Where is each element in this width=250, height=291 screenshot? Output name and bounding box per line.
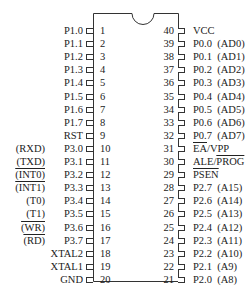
pin-name: P0.1 (AD1) [193, 50, 245, 63]
right-pin-row: 28P2.7 (A15) [0, 181, 250, 194]
pin-number: 36 [156, 76, 174, 89]
pin-name: P0.7 (AD7) [193, 129, 245, 142]
right-pin-row: 39P0.0 (AD0) [0, 37, 250, 50]
pin-stub-icon [178, 41, 185, 47]
pin-number: 38 [156, 50, 174, 63]
pin-number: 35 [156, 90, 174, 103]
pin-number: 28 [156, 181, 174, 194]
pin-stub-icon [178, 67, 185, 73]
pin-number: 25 [156, 221, 174, 234]
right-pin-row: 32P0.7 (AD7) [0, 129, 250, 142]
pin-number: 26 [156, 207, 174, 220]
pin-name: PSEN [193, 168, 219, 181]
pin-stub-icon [178, 172, 185, 178]
pin-name: P2.7 (A15) [193, 181, 242, 194]
pin-name: P2.3 (A11) [193, 234, 242, 247]
pin-number: 27 [156, 194, 174, 207]
overlined-signal: PSEN [193, 169, 219, 180]
pin-stub-icon [178, 211, 185, 217]
right-pin-row: 25P2.4 (A12) [0, 221, 250, 234]
pin-name: P0.2 (AD2) [193, 63, 245, 76]
pin-number: 33 [156, 116, 174, 129]
right-pin-row: 21P2.0 (A8) [0, 273, 250, 286]
overlined-signal: EA [193, 143, 207, 154]
pin-stub-icon [178, 120, 185, 126]
pin-number: 29 [156, 168, 174, 181]
pin-name: P0.5 (AD5) [193, 103, 245, 116]
right-pin-row: 24P2.3 (A11) [0, 234, 250, 247]
right-pin-row: 22P2.1 (A9) [0, 260, 250, 273]
pin-number: 24 [156, 234, 174, 247]
right-pin-row: 23P2.2 (A10) [0, 247, 250, 260]
right-pin-row: 29PSEN [0, 168, 250, 181]
right-pin-row: 36P0.3 (AD3) [0, 76, 250, 89]
pin-stub-icon [178, 225, 185, 231]
pin-number: 21 [156, 273, 174, 286]
pin-stub-icon [178, 28, 185, 34]
right-pin-row: 38P0.1 (AD1) [0, 50, 250, 63]
pin-number: 22 [156, 260, 174, 273]
right-pin-row: 34P0.5 (AD5) [0, 103, 250, 116]
pin-name: P0.0 (AD0) [193, 37, 245, 50]
pin-name: P2.2 (A10) [193, 247, 242, 260]
right-pin-row: 40VCC [0, 24, 250, 37]
pin-number: 34 [156, 103, 174, 116]
overlined-signal: PROG [216, 156, 244, 167]
pin-stub-icon [178, 277, 185, 283]
right-pin-row: 31EA/VPP [0, 142, 250, 155]
pin-stub-icon [178, 107, 185, 113]
pin-name: P0.4 (AD4) [193, 90, 245, 103]
pin-name: P2.5 (A13) [193, 207, 242, 220]
pin-name: P2.4 (A12) [193, 221, 242, 234]
pin-stub-icon [178, 133, 185, 139]
right-pin-row: 26P2.5 (A13) [0, 207, 250, 220]
pin-number: 32 [156, 129, 174, 142]
pin-number: 30 [156, 155, 174, 168]
pin-stub-icon [178, 94, 185, 100]
pin-name: VCC [193, 24, 215, 37]
pin-stub-icon [178, 80, 185, 86]
right-pin-row: 30ALE/PROG [0, 155, 250, 168]
right-pin-row: 37P0.2 (AD2) [0, 63, 250, 76]
pin-number: 31 [156, 142, 174, 155]
pin-stub-icon [178, 264, 185, 270]
pin-number: 23 [156, 247, 174, 260]
pin-stub-icon [178, 198, 185, 204]
pin-name: P2.1 (A9) [193, 260, 237, 273]
pin-number: 37 [156, 63, 174, 76]
right-pin-row: 27P2.6 (A14) [0, 194, 250, 207]
pin-stub-icon [178, 251, 185, 257]
right-pin-row: 35P0.4 (AD4) [0, 90, 250, 103]
pin-stub-icon [178, 238, 185, 244]
pin-name: P0.6 (AD6) [193, 116, 245, 129]
pin-stub-icon [178, 159, 185, 165]
pin-name: P2.0 (A8) [193, 273, 237, 286]
pin-stub-icon [178, 54, 185, 60]
pin-stub-icon [178, 146, 185, 152]
pin-number: 39 [156, 37, 174, 50]
right-pin-row: 33P0.6 (AD6) [0, 116, 250, 129]
pin-name: P2.6 (A14) [193, 194, 242, 207]
pin-name: ALE/PROG [193, 155, 244, 168]
pin-number: 40 [156, 24, 174, 37]
pin-name: EA/VPP [193, 142, 229, 155]
pin-name: P0.3 (AD3) [193, 76, 245, 89]
pin-stub-icon [178, 185, 185, 191]
